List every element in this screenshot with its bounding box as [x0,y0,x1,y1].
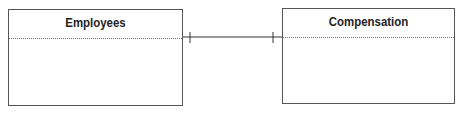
relationship-connector[interactable] [0,0,462,116]
